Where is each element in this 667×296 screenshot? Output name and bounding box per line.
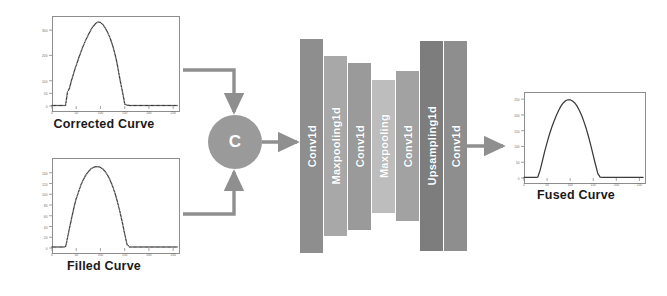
network-stack: Conv1dMaxpooling1dConv1dMaxpoolingConv1d…	[300, 36, 468, 256]
svg-text:100: 100	[567, 183, 573, 187]
network-layer-label: Maxpooling1d	[330, 107, 342, 185]
svg-text:40: 40	[44, 226, 48, 230]
svg-text:250: 250	[637, 183, 643, 187]
svg-text:20: 20	[44, 236, 48, 240]
svg-text:80: 80	[44, 204, 48, 208]
concat-node[interactable]: C	[208, 115, 262, 169]
svg-text:200: 200	[614, 183, 620, 187]
svg-text:50: 50	[74, 253, 78, 257]
network-layer-label: Conv1d	[354, 125, 366, 167]
network-layer-3[interactable]: Conv1d	[348, 63, 371, 230]
svg-text:150: 150	[122, 253, 128, 257]
network-layer-label: Maxpooling	[378, 114, 390, 178]
svg-text:200: 200	[146, 111, 152, 115]
arrow-corrected-to-concat	[183, 70, 234, 112]
concat-label: C	[229, 132, 241, 152]
svg-text:100: 100	[98, 253, 104, 257]
svg-text:140: 140	[42, 172, 48, 176]
svg-text:50: 50	[44, 92, 48, 96]
corrected-curve-panel: 050100200300050100150200250 Corrected Cu…	[28, 16, 180, 136]
svg-text:100: 100	[42, 80, 48, 84]
filled-curve-plot: 020406080100120140050100150200250	[28, 158, 180, 258]
svg-text:150: 150	[591, 183, 597, 187]
svg-text:120: 120	[42, 183, 48, 187]
svg-text:150: 150	[122, 111, 128, 115]
svg-text:100: 100	[42, 193, 48, 197]
svg-text:250: 250	[514, 98, 520, 102]
svg-text:250: 250	[170, 253, 176, 257]
fused-curve-caption: Fused Curve	[506, 188, 646, 202]
svg-text:300: 300	[42, 29, 48, 33]
svg-text:0: 0	[46, 247, 48, 251]
network-layer-label: Conv1d	[306, 125, 318, 167]
diagram-canvas: 050100200300050100150200250 Corrected Cu…	[0, 0, 667, 296]
network-layer-7[interactable]: Conv1d	[444, 41, 467, 251]
network-layer-1[interactable]: Conv1d	[300, 39, 323, 253]
svg-text:250: 250	[170, 111, 176, 115]
svg-text:150: 150	[514, 130, 520, 134]
network-layer-label: Upsampling1d	[426, 106, 438, 185]
filled-curve-panel: 020406080100120140050100150200250 Filled…	[28, 158, 180, 278]
svg-text:50: 50	[74, 111, 78, 115]
fused-curve-panel: 050100150200250050100150200250 Fused Cur…	[506, 92, 646, 210]
svg-text:60: 60	[44, 215, 48, 219]
network-layer-5[interactable]: Conv1d	[396, 71, 419, 221]
network-layer-label: Conv1d	[450, 125, 462, 167]
network-layer-6[interactable]: Upsampling1d	[420, 41, 443, 251]
svg-text:0: 0	[518, 177, 520, 181]
svg-text:100: 100	[98, 111, 104, 115]
corrected-curve-caption: Corrected Curve	[28, 117, 180, 131]
fused-curve-plot: 050100150200250050100150200250	[506, 92, 646, 188]
svg-text:200: 200	[42, 54, 48, 58]
svg-text:0: 0	[523, 183, 525, 187]
network-layer-4[interactable]: Maxpooling	[372, 80, 395, 213]
network-layer-label: Conv1d	[402, 125, 414, 167]
svg-text:0: 0	[51, 253, 53, 257]
network-layer-2[interactable]: Maxpooling1d	[324, 56, 347, 236]
arrow-filled-to-concat	[183, 172, 234, 214]
svg-text:0: 0	[46, 105, 48, 109]
filled-curve-caption: Filled Curve	[28, 259, 180, 273]
svg-text:200: 200	[514, 114, 520, 118]
svg-text:50: 50	[516, 161, 520, 165]
corrected-curve-plot: 050100200300050100150200250	[28, 16, 180, 116]
svg-text:100: 100	[514, 145, 520, 149]
svg-text:200: 200	[146, 253, 152, 257]
svg-text:50: 50	[545, 183, 549, 187]
svg-text:0: 0	[51, 111, 53, 115]
